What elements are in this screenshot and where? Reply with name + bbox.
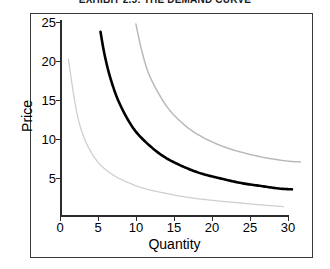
demand-curve-upper-path — [136, 24, 300, 162]
x-tick-label-10: 10 — [121, 221, 151, 234]
x-tick-label-25: 25 — [235, 221, 265, 234]
x-tick-label-30: 30 — [273, 221, 303, 234]
demand-curves — [60, 20, 313, 216]
y-tick-label-20: 20 — [30, 55, 56, 68]
x-axis-title: Quantity — [60, 236, 289, 252]
plot-area — [60, 20, 313, 216]
y-tick-label-5: 5 — [30, 172, 56, 185]
x-tick-label-20: 20 — [197, 221, 227, 234]
demand-curve-main-path — [100, 32, 291, 190]
x-tick-label-0: 0 — [45, 221, 75, 234]
y-tick-label-25: 25 — [30, 16, 56, 29]
x-tick-label-15: 15 — [159, 221, 189, 234]
y-axis-title: Price — [19, 81, 35, 151]
x-tick-label-5: 5 — [83, 221, 113, 234]
